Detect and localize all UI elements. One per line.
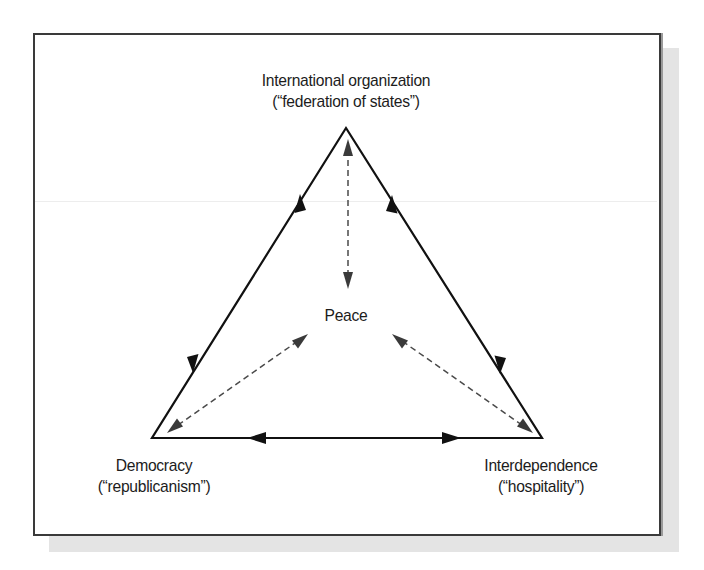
dashed-arrow-right-peace: [402, 341, 522, 425]
dashed-arrowhead-left-down: [167, 419, 183, 434]
node-top-subtitle: (“federation of states”): [208, 91, 484, 112]
dashed-arrowhead-top-down: [343, 272, 353, 289]
node-interdependence: Interdependence (“hospitality”): [449, 455, 633, 497]
node-left-title: Democracy: [62, 455, 246, 476]
dashed-arrowhead-right-up: [392, 334, 408, 349]
peace-dashed-arrows: [178, 150, 522, 425]
node-right-title: Interdependence: [449, 455, 633, 476]
arrowhead-bottom-edge-right: [442, 432, 461, 444]
node-left-subtitle: (“republicanism”): [62, 476, 246, 497]
node-international-organization: International organization (“federation …: [208, 70, 484, 112]
dashed-arrowheads: [167, 139, 533, 433]
node-peace: Peace: [300, 305, 392, 326]
node-top-title: International organization: [208, 70, 484, 91]
node-center-title: Peace: [300, 305, 392, 326]
arrowhead-right-edge-up: [386, 195, 398, 214]
arrowhead-bottom-edge-left: [247, 432, 266, 444]
node-democracy: Democracy (“republicanism”): [62, 455, 246, 497]
dashed-arrow-left-peace: [178, 341, 298, 425]
dashed-arrowhead-top-up: [343, 139, 353, 156]
dashed-arrowhead-left-up: [292, 334, 308, 349]
node-right-subtitle: (“hospitality”): [449, 476, 633, 497]
arrowhead-left-edge-down: [187, 354, 199, 373]
arrowhead-left-edge-up: [295, 194, 307, 213]
